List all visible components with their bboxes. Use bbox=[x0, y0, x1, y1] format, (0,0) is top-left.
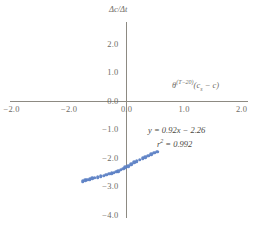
data-point bbox=[119, 168, 123, 172]
x-axis-title-rest: − c) bbox=[203, 80, 220, 90]
data-point bbox=[114, 170, 118, 174]
data-point bbox=[90, 177, 94, 181]
data-point bbox=[147, 154, 151, 158]
data-point bbox=[132, 161, 136, 165]
x-tick-label: 0.0 bbox=[112, 105, 142, 114]
data-point bbox=[152, 151, 156, 155]
scatter-chart-figure: Δc/Δt θ(T−20)(cs − c) −2.0−2.00.01.02.0 … bbox=[0, 0, 256, 245]
y-tick-label: 2.0 bbox=[93, 40, 119, 49]
data-point bbox=[155, 150, 159, 154]
r-squared-value: = 0.992 bbox=[163, 139, 192, 149]
y-tick-label: −2.0 bbox=[93, 154, 119, 163]
data-point bbox=[102, 174, 106, 178]
x-axis-title-exponent: (T−20) bbox=[176, 79, 193, 85]
x-tick-label: −2.0 bbox=[0, 105, 27, 114]
y-axis-line bbox=[126, 22, 127, 218]
y-tick-label: −4.0 bbox=[93, 211, 119, 220]
data-point bbox=[117, 169, 121, 173]
data-point bbox=[88, 177, 92, 181]
data-point bbox=[107, 172, 111, 176]
y-tick-label: 1.0 bbox=[93, 68, 119, 77]
data-point bbox=[93, 176, 97, 180]
data-point bbox=[141, 156, 145, 160]
x-axis-title: θ(T−20)(cs − c) bbox=[172, 79, 219, 92]
data-point bbox=[149, 152, 153, 156]
data-point bbox=[105, 173, 109, 177]
y-tick-label: −3.0 bbox=[93, 182, 119, 191]
y-tick-label: 0.0 bbox=[93, 97, 119, 106]
x-tick-label: 1.0 bbox=[169, 105, 199, 114]
regression-equation: y = 0.92x − 2.26 bbox=[148, 125, 205, 135]
x-axis-line bbox=[10, 101, 248, 102]
regression-annotation: y = 0.92x − 2.26 r2 = 0.992 bbox=[148, 125, 205, 150]
x-tick-label: −2.0 bbox=[54, 105, 84, 114]
x-tick-label: 2.0 bbox=[227, 105, 257, 114]
data-point bbox=[83, 179, 87, 183]
data-point bbox=[112, 171, 116, 175]
data-point bbox=[110, 172, 114, 176]
data-point bbox=[144, 155, 148, 159]
data-point bbox=[121, 167, 125, 171]
data-point bbox=[86, 178, 90, 182]
data-point-layer bbox=[0, 0, 256, 245]
data-point bbox=[129, 162, 133, 166]
data-point bbox=[99, 175, 103, 179]
data-point bbox=[135, 159, 139, 163]
r-squared-text: r2 = 0.992 bbox=[148, 136, 205, 150]
data-point bbox=[138, 158, 142, 162]
data-point bbox=[81, 180, 85, 184]
y-tick-label: −1.0 bbox=[93, 125, 119, 134]
data-point bbox=[96, 176, 100, 180]
y-axis-title: Δc/Δt bbox=[109, 4, 127, 14]
